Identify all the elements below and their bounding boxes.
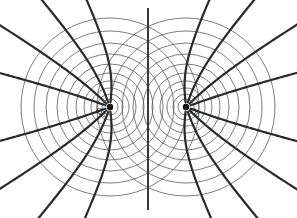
- point-charge-dot-q1: [107, 104, 113, 110]
- field-diagram-canvas: Q1Q2: [0, 0, 297, 218]
- point-charge-dot-q2: [183, 104, 189, 110]
- field-diagram-figure: Q1Q2: [0, 0, 297, 218]
